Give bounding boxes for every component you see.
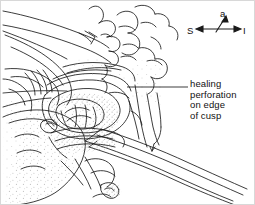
surgical-illustration-figure: healing perforation on edge of cusp a S … bbox=[0, 0, 255, 205]
annotation-line-4: of cusp bbox=[190, 111, 237, 122]
healing-perforation-annotation: healing perforation on edge of cusp bbox=[190, 79, 237, 121]
orientation-compass-arrows bbox=[196, 16, 241, 32]
compass-label-anterior: a bbox=[220, 8, 225, 19]
annotation-line-1: healing bbox=[190, 79, 237, 90]
compass-label-inferior: I bbox=[243, 25, 246, 36]
compass-label-superior: S bbox=[187, 25, 193, 36]
